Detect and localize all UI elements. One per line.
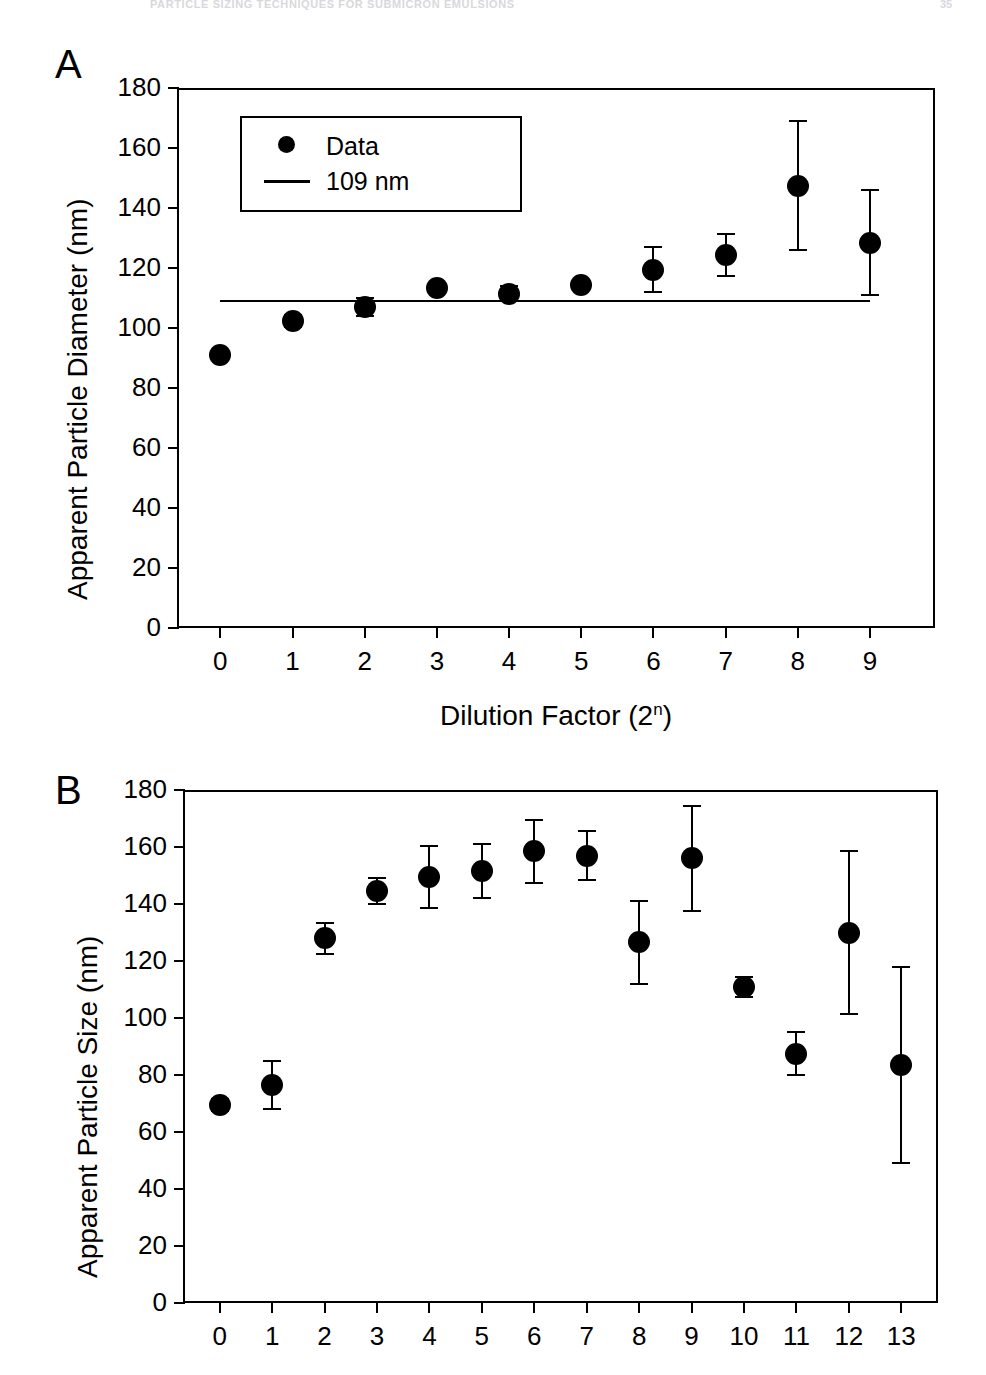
panel-b-error-cap-upper	[892, 966, 910, 968]
panel-b-xtick-label: 10	[714, 1323, 774, 1349]
panel-a-reference-line-109nm	[220, 300, 870, 302]
panel-b-xtick	[533, 1302, 535, 1313]
panel-a-ytick-label: 60	[99, 434, 161, 460]
panel-b-ytick-label: 80	[105, 1061, 167, 1087]
panel-b-xtick	[219, 1302, 221, 1313]
panel-a-error-cap-lower	[644, 291, 662, 293]
panel-b-ytick	[174, 1245, 185, 1247]
panel-b-ytick	[174, 1188, 185, 1190]
panel-b-xtick	[324, 1302, 326, 1313]
panel-a-ytick-label: 20	[99, 554, 161, 580]
panel-a-xtick-label: 6	[623, 648, 683, 674]
panel-a-data-point	[498, 283, 520, 305]
panel-a-ytick-label: 80	[99, 374, 161, 400]
panel-a-error-cap-upper	[789, 120, 807, 122]
panel-b-ytick	[174, 1302, 185, 1304]
panel-b-error-cap-lower	[578, 879, 596, 881]
panel-b-error-cap-lower	[840, 1013, 858, 1015]
panel-b-xtick-label: 9	[662, 1323, 722, 1349]
panel-a-error-cap-lower	[861, 294, 879, 296]
panel-b-axes-frame	[183, 790, 938, 1303]
panel-a-x-axis-title: Dilution Factor (2n)	[117, 700, 986, 732]
panel-b-ytick	[174, 789, 185, 791]
panel-b-xtick-label: 4	[399, 1323, 459, 1349]
panel-b-data-point	[471, 860, 493, 882]
panel-b-error-cap-lower	[892, 1162, 910, 1164]
panel-a-error-cap-upper	[861, 189, 879, 191]
panel-a-ytick-label: 140	[99, 194, 161, 220]
panel-b-error-cap-lower	[787, 1074, 805, 1076]
panel-b-error-cap-upper	[683, 805, 701, 807]
panel-b-xtick	[743, 1302, 745, 1313]
panel-b-xtick-label: 7	[557, 1323, 617, 1349]
legend-label-109-nm: 109 nm	[326, 169, 409, 194]
panel-b-xtick	[428, 1302, 430, 1313]
panel-a-xtick-label: 3	[407, 648, 467, 674]
panel-b-error-cap-lower	[420, 907, 438, 909]
panel-a-xtick-label: 7	[696, 648, 756, 674]
panel-b-xtick	[848, 1302, 850, 1313]
panel-b-xtick	[795, 1302, 797, 1313]
panel-a-xtick	[292, 627, 294, 638]
panel-b-error-cap-lower	[473, 897, 491, 899]
panel-b-error-cap-upper	[525, 819, 543, 821]
panel-b-error-cap-upper	[368, 877, 386, 879]
panel-a-ytick	[168, 207, 179, 209]
panel-b-ytick-label: 100	[105, 1004, 167, 1030]
panel-b-xtick-label: 0	[190, 1323, 250, 1349]
panel-b-ytick-label: 0	[105, 1289, 167, 1315]
panel-a-data-point	[570, 274, 592, 296]
panel-a-error-cap-lower	[717, 275, 735, 277]
panel-b-ytick	[174, 1017, 185, 1019]
panel-b-xtick	[586, 1302, 588, 1313]
panel-a-ytick	[168, 147, 179, 149]
panel-a-ytick	[168, 627, 179, 629]
panel-a-ytick-label: 160	[99, 134, 161, 160]
panel-b-letter: B	[55, 770, 82, 810]
panel-b-error-cap-upper	[787, 1031, 805, 1033]
legend-label-data: Data	[326, 134, 379, 159]
panel-b-error-cap-upper	[578, 830, 596, 832]
panel-b-xtick	[691, 1302, 693, 1313]
panel-b-y-axis-title: Apparent Particle Size (nm)	[72, 936, 104, 1278]
panel-b-error-cap-upper	[473, 843, 491, 845]
panel-b-error-cap-upper	[263, 1060, 281, 1062]
panel-b-data-point	[366, 880, 388, 902]
panel-b-xtick-label: 5	[452, 1323, 512, 1349]
panel-b-data-point	[209, 1094, 231, 1116]
panel-b-error-cap-lower	[630, 983, 648, 985]
panel-a-xtick	[364, 627, 366, 638]
panel-a-xtick	[219, 627, 221, 638]
panel-a-xtick	[580, 627, 582, 638]
panel-b-error-cap-upper	[316, 922, 334, 924]
panel-b-data-point	[733, 976, 755, 998]
panel-a-data-point	[642, 259, 664, 281]
panel-b-xtick-label: 8	[609, 1323, 669, 1349]
panel-a-xtick-label: 1	[263, 648, 323, 674]
panel-b-xtick	[481, 1302, 483, 1313]
panel-a-letter: A	[55, 44, 82, 84]
panel-a-y-axis-title: Apparent Particle Diameter (nm)	[62, 199, 94, 600]
panel-b-ytick-label: 180	[105, 776, 167, 802]
panel-b-data-point	[838, 922, 860, 944]
panel-a-ytick-label: 120	[99, 254, 161, 280]
panel-a-ytick-label: 40	[99, 494, 161, 520]
panel-b-xtick-label: 3	[347, 1323, 407, 1349]
panel-a-data-point	[715, 244, 737, 266]
panel-b-error-cap-lower	[368, 903, 386, 905]
panel-b-error-cap-lower	[316, 953, 334, 955]
panel-a-xtick-label: 0	[190, 648, 250, 674]
panel-b-ytick-label: 60	[105, 1118, 167, 1144]
panel-a-xtick	[725, 627, 727, 638]
panel-a-error-cap-upper	[644, 246, 662, 248]
panel-a-xtick	[508, 627, 510, 638]
panel-a-x-axis-title-exponent: n	[653, 700, 662, 719]
panel-b-ytick	[174, 960, 185, 962]
panel-b-xtick	[376, 1302, 378, 1313]
panel-b-error-cap-lower	[263, 1108, 281, 1110]
panel-a-ytick	[168, 267, 179, 269]
panel-b-error-cap-upper	[630, 900, 648, 902]
panel-b-xtick-label: 11	[766, 1323, 826, 1349]
panel-a-error-cap-upper	[717, 233, 735, 235]
panel-b-ytick-label: 20	[105, 1232, 167, 1258]
